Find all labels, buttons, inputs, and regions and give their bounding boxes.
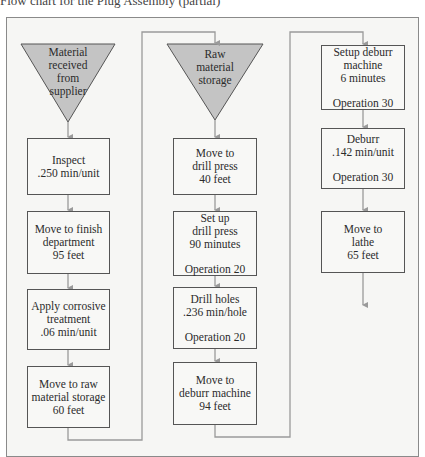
- step-apply-corrosive: Apply corrosive treatment .06 min/unit: [27, 289, 110, 350]
- step-drill-holes: Drill holes .236 min/hole Operation 20: [173, 287, 257, 349]
- step-set-up-drill-press: Set up drill press 90 minutes Operation …: [173, 211, 257, 276]
- storage-label-material-received: Material received from supplier: [38, 46, 98, 98]
- step-move-to-drill-press: Move to drill press 40 feet: [173, 138, 257, 195]
- step-move-to-finish: Move to finish department 95 feet: [27, 211, 110, 274]
- step-setup-deburr-machine: Setup deburr machine 6 minutes Operation…: [321, 45, 405, 110]
- operation-label: Operation 20: [185, 263, 245, 276]
- operation-label: Operation 20: [185, 331, 245, 344]
- operation-label: Operation 30: [333, 97, 393, 110]
- step-move-to-lathe: Move to lathe 65 feet: [321, 211, 405, 273]
- step-move-to-raw-storage: Move to raw material storage 60 feet: [27, 366, 110, 428]
- step-move-to-deburr: Move to deburr machine 94 feet: [173, 362, 257, 425]
- step-deburr: Deburr .142 min/unit Operation 30: [321, 128, 405, 189]
- storage-label-raw-material: Raw material storage: [185, 48, 245, 87]
- operation-label: Operation 30: [333, 171, 393, 184]
- step-inspect: Inspect .250 min/unit: [27, 138, 110, 195]
